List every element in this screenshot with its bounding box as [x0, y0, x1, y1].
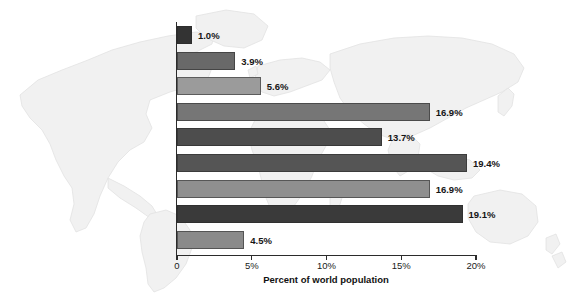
- plot-area: 05%10%15%20% Jewish1.0%Confucian3.9%Budd…: [0, 0, 573, 297]
- bar-2[interactable]: [177, 77, 261, 95]
- x-tick-label-3: 15%: [392, 260, 411, 271]
- bar-0[interactable]: [177, 26, 192, 44]
- bar-3[interactable]: [177, 103, 430, 121]
- chart-figure: 05%10%15%20% Jewish1.0%Confucian3.9%Budd…: [0, 0, 573, 297]
- x-tick-label-1: 5%: [245, 260, 259, 271]
- value-label-3: 16.9%: [436, 107, 463, 118]
- value-label-0: 1.0%: [198, 30, 220, 41]
- value-label-7: 19.1%: [469, 209, 496, 220]
- bar-1[interactable]: [177, 52, 235, 70]
- value-label-6: 16.9%: [436, 184, 463, 195]
- x-axis-title: Percent of world population: [176, 274, 476, 285]
- value-label-8: 4.5%: [250, 235, 272, 246]
- bar-8[interactable]: [177, 231, 244, 249]
- x-tick-label-2: 10%: [317, 260, 336, 271]
- x-tick-label-0: 0: [174, 260, 179, 271]
- bar-7[interactable]: [177, 205, 463, 223]
- bar-6[interactable]: [177, 180, 430, 198]
- value-label-2: 5.6%: [267, 81, 289, 92]
- value-label-1: 3.9%: [241, 56, 263, 67]
- bar-5[interactable]: [177, 154, 467, 172]
- x-tick-label-4: 20%: [466, 260, 485, 271]
- value-label-5: 19.4%: [473, 158, 500, 169]
- value-label-4: 13.7%: [388, 132, 415, 143]
- bar-4[interactable]: [177, 128, 382, 146]
